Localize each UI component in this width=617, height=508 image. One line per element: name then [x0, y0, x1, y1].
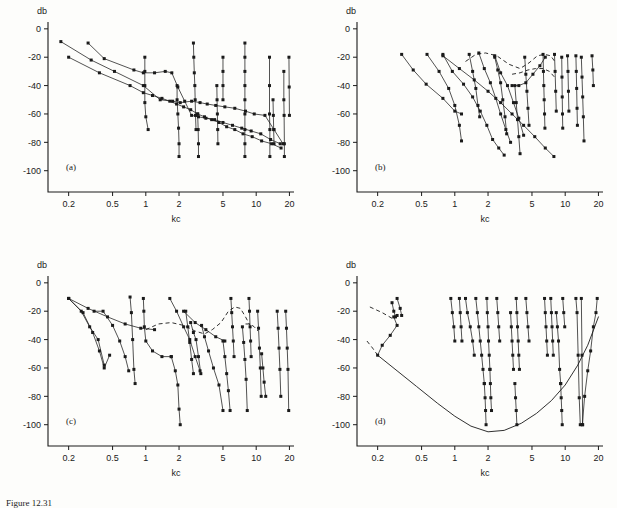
data-point-marker: [542, 84, 545, 87]
data-point-marker: [98, 71, 101, 74]
data-point-marker: [481, 368, 484, 371]
data-trace-line: [543, 54, 545, 128]
data-point-marker: [261, 366, 264, 369]
x-axis-label: kc: [171, 468, 181, 478]
data-point-marker: [279, 395, 282, 398]
plot-panel-a: 0-20-40-60-80-1000.20.51251020dbkc(a): [0, 0, 308, 254]
data-point-marker: [543, 112, 546, 115]
data-trace-line: [443, 54, 504, 155]
data-point-marker: [142, 297, 145, 300]
data-point-marker: [560, 409, 563, 412]
data-point-marker: [518, 368, 521, 371]
data-point-marker: [287, 409, 290, 412]
data-point-marker: [499, 71, 502, 74]
data-point-marker: [469, 325, 472, 328]
data-point-marker: [190, 114, 193, 117]
data-point-marker: [459, 311, 462, 314]
data-point-marker: [268, 155, 271, 158]
y-tick-label: -100: [332, 166, 350, 176]
data-point-marker: [147, 128, 150, 131]
data-point-marker: [256, 310, 259, 313]
data-point-marker: [488, 354, 491, 357]
data-point-marker: [487, 325, 490, 328]
data-point-marker: [511, 354, 514, 357]
x-tick-label: 0.2: [371, 199, 384, 209]
data-point-marker: [259, 366, 262, 369]
data-point-marker: [231, 325, 234, 328]
data-point-marker: [106, 315, 109, 318]
data-point-marker: [517, 84, 520, 87]
y-tick-label: -100: [23, 420, 41, 430]
data-trace-line: [378, 317, 397, 355]
data-point-marker: [243, 56, 246, 59]
data-point-marker: [103, 57, 106, 60]
x-tick-label: 0.2: [371, 453, 384, 463]
data-point-marker: [124, 355, 127, 358]
data-point-marker: [243, 155, 246, 158]
data-point-marker: [170, 355, 173, 358]
data-point-marker: [550, 311, 553, 314]
data-point-marker: [567, 90, 570, 93]
data-point-marker: [151, 349, 154, 352]
data-point-marker: [176, 84, 179, 87]
data-point-marker: [142, 91, 145, 94]
y-axis-label: db: [37, 6, 47, 16]
data-point-marker: [268, 56, 271, 59]
data-trace-line: [582, 298, 597, 424]
data-point-marker: [512, 368, 515, 371]
data-point-marker: [514, 396, 517, 399]
data-point-marker: [438, 70, 441, 73]
data-trace-line: [198, 114, 199, 157]
data-point-marker: [392, 310, 395, 313]
y-tick-label: -60: [337, 363, 350, 373]
figure-container: 0-20-40-60-80-1000.20.51251020dbkc(a)0-2…: [0, 0, 617, 508]
data-point-marker: [483, 382, 486, 385]
data-point-marker: [242, 341, 245, 344]
data-point-marker: [489, 382, 492, 385]
data-point-marker: [580, 297, 583, 300]
data-point-marker: [248, 310, 251, 313]
data-point-marker: [90, 59, 93, 62]
data-point-marker: [487, 90, 490, 93]
data-point-marker: [242, 132, 245, 135]
y-tick-label: 0: [345, 278, 350, 288]
data-trace-line: [143, 298, 171, 356]
y-tick-label: -40: [28, 81, 41, 91]
data-point-marker: [199, 372, 202, 375]
data-point-marker: [227, 389, 230, 392]
data-point-marker: [556, 325, 559, 328]
data-point-marker: [491, 138, 494, 141]
data-point-marker: [216, 142, 219, 145]
data-point-marker: [504, 115, 507, 118]
data-point-marker: [392, 315, 395, 318]
data-point-marker: [523, 56, 526, 59]
x-axis-label: kc: [171, 214, 181, 224]
data-point-marker: [177, 127, 180, 130]
data-point-marker: [249, 325, 252, 328]
data-point-marker: [425, 83, 428, 86]
data-point-marker: [591, 68, 594, 71]
data-trace-line: [562, 57, 563, 128]
plot-panel-d: 0-20-40-60-80-1000.20.51251020dbkc(d): [309, 254, 617, 508]
data-point-marker: [551, 340, 554, 343]
data-point-marker: [479, 340, 482, 343]
data-point-marker: [143, 56, 146, 59]
data-point-marker: [554, 70, 557, 73]
data-point-marker: [543, 127, 546, 130]
data-point-marker: [447, 87, 450, 90]
data-point-marker: [197, 355, 200, 358]
data-point-marker: [192, 331, 195, 334]
data-point-marker: [102, 310, 105, 313]
data-point-marker: [574, 54, 577, 57]
data-point-marker: [257, 327, 260, 330]
data-point-marker: [399, 307, 402, 310]
data-point-marker: [258, 347, 261, 350]
data-point-marker: [273, 142, 276, 145]
data-point-marker: [460, 340, 463, 343]
x-tick-label: 10: [560, 199, 570, 209]
data-series-group: [59, 40, 291, 158]
data-point-marker: [260, 395, 263, 398]
dashed-envelope-curve: [146, 307, 250, 334]
data-point-marker: [282, 70, 285, 73]
data-point-marker: [519, 152, 522, 155]
